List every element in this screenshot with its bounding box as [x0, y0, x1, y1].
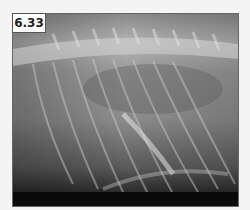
figure-label: 6.33 — [12, 13, 46, 33]
figure-image-frame — [12, 13, 239, 207]
radiograph-image — [13, 14, 238, 206]
